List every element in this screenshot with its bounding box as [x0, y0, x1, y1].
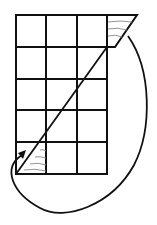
move-arrow-curve: [12, 36, 147, 213]
grid-lines: [16, 15, 107, 174]
grid-diagram: [0, 0, 157, 225]
bottom-left-triangle: [24, 150, 46, 171]
